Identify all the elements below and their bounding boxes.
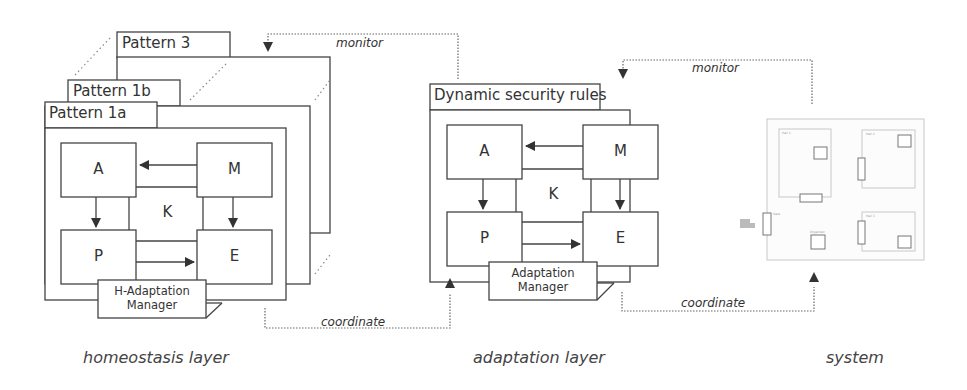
system-room-hall-3: Hall 3: [866, 215, 875, 218]
coordinate-edge-label-left: coordinate: [321, 316, 385, 328]
h-adaptation-manager-line2: Manager: [98, 298, 206, 312]
pattern-1b-tab: Pattern 1b: [73, 84, 151, 99]
adapt-analyze-box: A: [447, 144, 522, 159]
adaptation-layer-caption: adaptation layer: [473, 350, 605, 366]
pattern-1a-tab: Pattern 1a: [49, 106, 126, 121]
monitor-box: M: [197, 162, 272, 177]
monitor-edge-label-right: monitor: [692, 62, 739, 74]
adaptation-manager-line2: Manager: [489, 280, 597, 294]
h-adaptation-manager: H-Adaptation Manager: [98, 284, 206, 313]
adapt-monitor-box: M: [583, 144, 658, 159]
pattern-3-tab: Pattern 3: [122, 36, 190, 51]
adapt-plan-box: P: [447, 231, 522, 246]
adapt-execute-box: E: [583, 231, 658, 246]
homeostasis-layer-caption: homeostasis layer: [83, 350, 229, 366]
diagram-lines: [0, 0, 967, 390]
knowledge-label: K: [140, 205, 195, 220]
system-room-hall-2: Hall 2: [866, 133, 875, 136]
adapt-knowledge-label: K: [526, 187, 581, 202]
system-room-hall-1: Hall 1: [782, 132, 791, 135]
adaptation-manager-line1: Adaptation: [489, 266, 597, 280]
execute-box: E: [197, 249, 272, 264]
plan-box: P: [61, 249, 136, 264]
dynamic-security-rules-title: Dynamic security rules: [434, 88, 606, 103]
system-room-gate: Gate: [773, 213, 780, 216]
h-adaptation-manager-line1: H-Adaptation: [98, 284, 206, 298]
coordinate-edge-label-right: coordinate: [681, 297, 745, 309]
adaptation-manager: Adaptation Manager: [489, 266, 597, 295]
monitor-edge-label-left: monitor: [336, 37, 383, 49]
system-room-organizer: Organizer: [810, 231, 825, 234]
architecture-diagram: Pattern 3 Pattern 1b Pattern 1a A M K P …: [0, 0, 967, 390]
system-caption: system: [826, 350, 884, 366]
analyze-box: A: [61, 162, 136, 177]
